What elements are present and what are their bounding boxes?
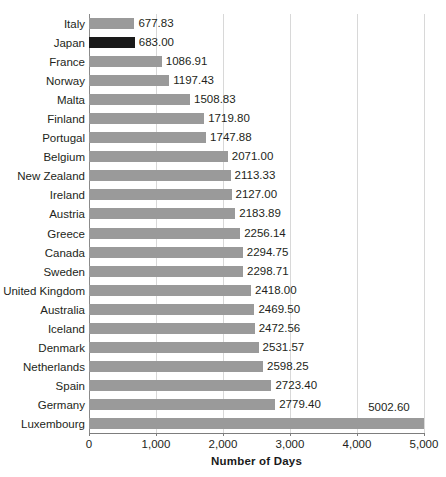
x-tick-mark xyxy=(89,433,90,436)
bar-france xyxy=(89,56,162,67)
bar-chart: ItalyJapanFranceNorwayMaltaFinlandPortug… xyxy=(0,0,446,477)
y-axis-label-united-kingdom: United Kingdom xyxy=(0,281,85,302)
bar-row: 683.00 xyxy=(89,33,424,54)
category-label-text: Greece xyxy=(0,224,85,245)
bar-row: 2071.00 xyxy=(89,147,424,168)
bar-row: 2723.40 xyxy=(89,376,424,397)
category-label-text: Belgium xyxy=(0,147,85,168)
category-label-text: Spain xyxy=(0,376,85,397)
x-tick-label: 1,000 xyxy=(142,436,171,452)
bar-norway xyxy=(89,75,169,86)
category-label-text: Germany xyxy=(0,395,85,416)
bar-belgium xyxy=(89,151,228,162)
bar-rows: 677.83683.001086.911197.431508.831719.80… xyxy=(89,14,424,433)
y-axis-label-greece: Greece xyxy=(0,224,85,245)
y-axis-label-germany: Germany xyxy=(0,395,85,416)
y-axis-category-labels: ItalyJapanFranceNorwayMaltaFinlandPortug… xyxy=(0,14,85,433)
x-tick-label: 2,000 xyxy=(209,436,238,452)
x-tick-label: 5,000 xyxy=(410,436,439,452)
bar-united-kingdom xyxy=(89,285,251,296)
x-tick-mark xyxy=(156,433,157,436)
bar-value-label: 2779.40 xyxy=(279,396,321,412)
bar-value-label: 2469.50 xyxy=(258,301,300,317)
y-axis-label-france: France xyxy=(0,52,85,73)
category-label-text: Norway xyxy=(0,71,85,92)
y-axis-label-new-zealand: New Zealand xyxy=(0,166,85,187)
x-axis-tick-labels: 01,0002,0003,0004,0005,000 xyxy=(0,436,446,454)
y-axis-label-finland: Finland xyxy=(0,109,85,130)
bar-value-label: 2472.56 xyxy=(259,320,301,336)
x-tick-mark xyxy=(290,433,291,436)
category-label-text: Luxembourg xyxy=(0,414,85,435)
x-axis-title: Number of Days xyxy=(89,455,424,467)
category-label-text: Iceland xyxy=(0,319,85,340)
y-axis-label-luxembourg: Luxembourg xyxy=(0,414,85,435)
category-label-text: Austria xyxy=(0,204,85,225)
bar-row: 2127.00 xyxy=(89,185,424,206)
bar-australia xyxy=(89,304,254,315)
category-label-text: Malta xyxy=(0,90,85,111)
bar-row: 2256.14 xyxy=(89,224,424,245)
bar-value-label: 2723.40 xyxy=(275,377,317,393)
bar-greece xyxy=(89,228,240,239)
bar-row: 2598.25 xyxy=(89,357,424,378)
bar-germany xyxy=(89,399,275,410)
y-axis-label-australia: Australia xyxy=(0,300,85,321)
bar-denmark xyxy=(89,342,259,353)
bar-japan xyxy=(89,37,135,48)
bar-value-label: 2256.14 xyxy=(244,225,286,241)
bar-ireland xyxy=(89,189,232,200)
bar-new-zealand xyxy=(89,170,231,181)
gridline-5000 xyxy=(424,14,425,433)
bar-value-label: 1508.83 xyxy=(194,91,236,107)
bar-netherlands xyxy=(89,361,263,372)
y-axis-label-iceland: Iceland xyxy=(0,319,85,340)
bar-row: 2418.00 xyxy=(89,281,424,302)
y-axis-label-norway: Norway xyxy=(0,71,85,92)
bar-row: 2183.89 xyxy=(89,204,424,225)
bar-row: 677.83 xyxy=(89,14,424,35)
bar-row: 1719.80 xyxy=(89,109,424,130)
y-axis-label-canada: Canada xyxy=(0,243,85,264)
bar-value-label: 2298.71 xyxy=(247,263,289,279)
bar-italy xyxy=(89,18,134,29)
bar-row: 1508.83 xyxy=(89,90,424,111)
category-label-text: Japan xyxy=(0,33,85,54)
y-axis-label-belgium: Belgium xyxy=(0,147,85,168)
bar-portugal xyxy=(89,132,206,143)
y-axis-label-spain: Spain xyxy=(0,376,85,397)
category-label-text: Denmark xyxy=(0,338,85,359)
y-axis-label-netherlands: Netherlands xyxy=(0,357,85,378)
category-label-text: Netherlands xyxy=(0,357,85,378)
bar-row: 1086.91 xyxy=(89,52,424,73)
category-label-text: Ireland xyxy=(0,185,85,206)
bar-value-label: 2127.00 xyxy=(236,186,278,202)
x-tick-label: 4,000 xyxy=(343,436,372,452)
bar-row: 2531.57 xyxy=(89,338,424,359)
bar-value-label: 1086.91 xyxy=(166,53,208,69)
bar-spain xyxy=(89,380,271,391)
x-tick-mark xyxy=(424,433,425,436)
bar-finland xyxy=(89,113,204,124)
bar-row: 2472.56 xyxy=(89,319,424,340)
bar-value-label: 2418.00 xyxy=(255,282,297,298)
x-axis-line xyxy=(89,433,425,434)
bar-austria xyxy=(89,208,235,219)
bar-row: 1747.88 xyxy=(89,128,424,149)
plot-area: 677.83683.001086.911197.431508.831719.80… xyxy=(89,14,424,433)
category-label-text: Australia xyxy=(0,300,85,321)
category-label-text: France xyxy=(0,52,85,73)
bar-row: 2294.75 xyxy=(89,243,424,264)
category-label-text: Finland xyxy=(0,109,85,130)
bar-value-label: 1197.43 xyxy=(173,72,214,88)
category-label-text: United Kingdom xyxy=(0,281,85,302)
x-tick-mark xyxy=(223,433,224,436)
bar-value-label: 2071.00 xyxy=(232,148,274,164)
y-axis-label-ireland: Ireland xyxy=(0,185,85,206)
bar-value-label: 2113.33 xyxy=(235,167,276,183)
bar-row: 2469.50 xyxy=(89,300,424,321)
category-label-text: Portugal xyxy=(0,128,85,149)
y-axis-label-austria: Austria xyxy=(0,204,85,225)
bar-value-label: 683.00 xyxy=(139,34,174,50)
bar-malta xyxy=(89,94,190,105)
